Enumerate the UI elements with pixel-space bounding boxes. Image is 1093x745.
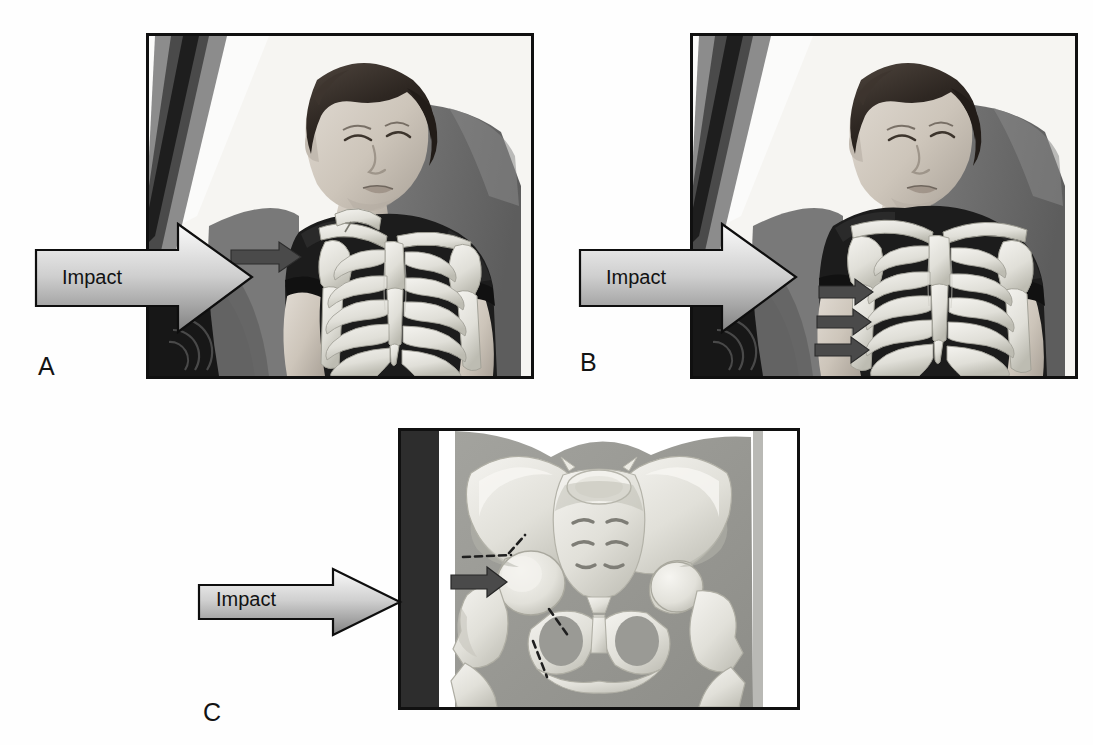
panel-a-frame xyxy=(146,33,534,379)
sternum-manubrium xyxy=(929,235,951,287)
obturator-foramen-left xyxy=(539,616,583,666)
panel-letter-b: B xyxy=(580,348,597,377)
injury-arrows-ribs xyxy=(815,279,873,363)
impact-label-a: Impact xyxy=(62,266,122,289)
obturator-foramen-right xyxy=(615,616,659,666)
sternum-body xyxy=(931,284,948,343)
panel-a-illustration xyxy=(149,36,531,376)
panel-c-illustration xyxy=(401,431,797,707)
medical-illustration-figure: Impact A xyxy=(0,0,1093,745)
pubic-symphysis xyxy=(591,617,607,653)
impact-label-c: Impact xyxy=(216,588,276,611)
panel-c-frame xyxy=(398,428,800,710)
sternum-manubrium xyxy=(385,241,405,291)
impact-label-b: Impact xyxy=(606,266,666,289)
door-impact-bar xyxy=(401,431,439,707)
panel-letter-c: C xyxy=(203,698,222,727)
arm-near xyxy=(283,288,325,376)
panel-letter-a: A xyxy=(38,352,55,381)
panel-b-frame xyxy=(690,33,1078,379)
panel-b-illustration xyxy=(693,36,1075,376)
